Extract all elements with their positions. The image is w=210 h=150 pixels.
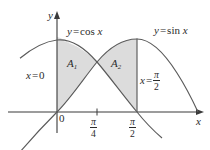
region-label-a2: A2 <box>111 58 121 71</box>
shaded-region-a2 <box>97 39 137 112</box>
boundary-label-x-eq-pi-over-2: x=π2 <box>140 70 160 92</box>
region-label-a2-subscript: 2 <box>118 63 121 70</box>
fraction-numerator: π <box>129 117 136 127</box>
shaded-region-a1-fill <box>57 40 97 112</box>
y-axis-label: y <box>48 10 53 21</box>
fraction-denominator: 2 <box>153 82 160 92</box>
fraction-numerator: π <box>90 117 97 127</box>
math-figure-area-between-curves: y x y=cos x y=sin x A1 A2 x=0 x=π2 0 π4 … <box>0 0 210 150</box>
x-tick-label-pi-over-4-fraction: π4 <box>90 117 97 139</box>
fraction-denominator: 4 <box>90 129 97 139</box>
curve-label-cosine-op: = <box>72 25 80 37</box>
x-tick-label-0-text: 0 <box>59 112 65 124</box>
boundary-label-x-eq-0-rhs: 0 <box>39 69 45 81</box>
x-tick-label-pi-over-4: π4 <box>90 117 97 139</box>
curve-label-sine-op: = <box>159 24 167 36</box>
y-axis-arrow-icon <box>54 11 60 19</box>
x-tick-label-pi-over-2: π2 <box>129 117 136 139</box>
curve-label-sine-fn: sin <box>167 24 180 36</box>
region-label-a1-subscript: 1 <box>74 63 77 70</box>
boundary-label-x-eq-0: x=0 <box>26 70 45 81</box>
curve-label-sine: y=sin x <box>154 25 188 36</box>
curve-label-cosine-arg: x <box>98 25 103 37</box>
curve-label-cosine: y=cos x <box>67 26 102 37</box>
boundary-label-x-eq-pi-over-2-fraction: π2 <box>153 70 160 92</box>
boundary-label-x-eq-pi-over-2-op: = <box>145 74 153 86</box>
curve-label-sine-arg: x <box>183 24 188 36</box>
x-tick-label-0: 0 <box>59 113 65 124</box>
x-axis-label: x <box>196 116 201 127</box>
fraction-denominator: 2 <box>129 129 136 139</box>
region-label-a1: A1 <box>67 58 77 71</box>
region-label-a2-base: A <box>111 57 118 69</box>
curve-label-cosine-fn: cos <box>80 25 95 37</box>
boundary-label-x-eq-0-op: = <box>31 69 39 81</box>
region-label-a1-base: A <box>67 57 74 69</box>
fraction-numerator: π <box>153 70 160 80</box>
x-tick-label-pi-over-2-fraction: π2 <box>129 117 136 139</box>
